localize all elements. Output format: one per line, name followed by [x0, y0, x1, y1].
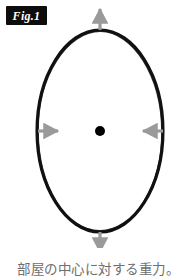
- figure-page: Fig.1 部屋の中心に対する重力。: [0, 0, 196, 279]
- gravity-diagram: [0, 0, 196, 248]
- figure-number-badge: Fig.1: [6, 6, 47, 25]
- figure-caption: 部屋の中心に対する重力。: [0, 262, 196, 277]
- room-center-dot: [95, 126, 105, 136]
- figure-number-label: Fig.1: [13, 10, 41, 22]
